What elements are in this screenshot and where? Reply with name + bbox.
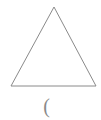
open-paren-caption: ( bbox=[0, 95, 101, 117]
figure-canvas: ( bbox=[0, 0, 101, 120]
open-paren-glyph: ( bbox=[43, 95, 50, 117]
triangle-outline bbox=[11, 7, 96, 86]
